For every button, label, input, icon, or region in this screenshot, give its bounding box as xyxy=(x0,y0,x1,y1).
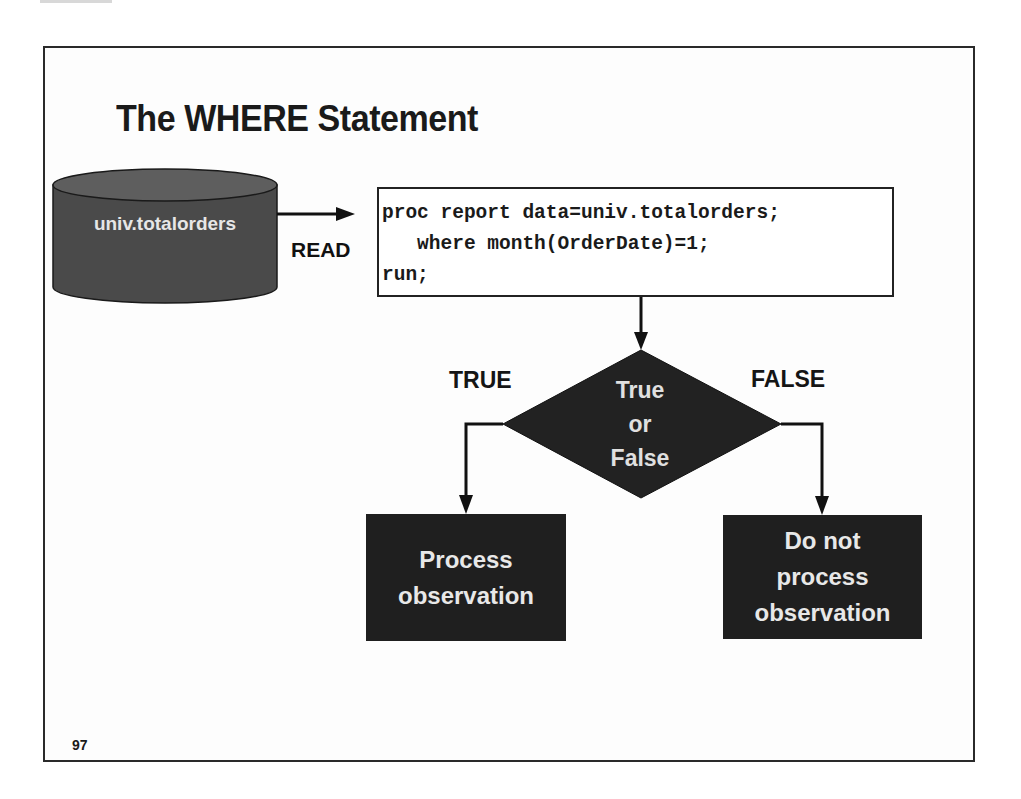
decision-line-1: True xyxy=(570,373,710,407)
down-arrow-icon xyxy=(634,297,648,350)
decision-line-2: or xyxy=(570,407,710,441)
true-branch-arrow-icon xyxy=(459,424,503,514)
false-box-line-3: observation xyxy=(754,595,890,631)
false-branch-label: FALSE xyxy=(751,366,825,393)
code-line-where: where month(OrderDate)=1; xyxy=(382,229,892,260)
code-block: proc report data=univ.totalorders; where… xyxy=(377,187,894,297)
database-cylinder-icon xyxy=(53,169,277,303)
true-box-line-2: observation xyxy=(398,578,534,614)
process-observation-box: Process observation xyxy=(366,514,566,641)
data-source-name: univ.totalorders xyxy=(53,213,277,235)
false-box-line-2: process xyxy=(776,559,868,595)
do-not-process-observation-box: Do not process observation xyxy=(723,515,922,639)
flowchart-graphics xyxy=(0,0,1021,799)
false-box-line-1: Do not xyxy=(785,523,861,559)
read-arrow-icon xyxy=(277,207,355,221)
code-line-run: run; xyxy=(382,260,892,291)
decision-text: True or False xyxy=(570,373,710,475)
true-branch-label: TRUE xyxy=(449,367,512,394)
page-number: 97 xyxy=(72,737,88,753)
decision-line-3: False xyxy=(570,441,710,475)
read-label: READ xyxy=(291,238,351,262)
code-line-proc: proc report data=univ.totalorders; xyxy=(382,198,892,229)
false-branch-arrow-icon xyxy=(781,424,829,515)
true-box-line-1: Process xyxy=(419,542,512,578)
